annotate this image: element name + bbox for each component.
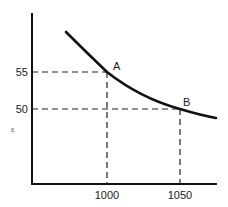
demand-curve xyxy=(66,32,216,118)
x-tick-1000: 1000 xyxy=(95,189,119,201)
point-a-label: A xyxy=(113,60,121,72)
y-tick-55: 55 xyxy=(16,66,28,78)
x-tick-1050: 1050 xyxy=(168,189,192,201)
y-tick-50: 50 xyxy=(16,103,28,115)
chart: 55 50 1000 1050 A B ε xyxy=(0,0,228,207)
point-b-label: B xyxy=(183,96,190,108)
stray-mark: ε xyxy=(11,125,15,134)
